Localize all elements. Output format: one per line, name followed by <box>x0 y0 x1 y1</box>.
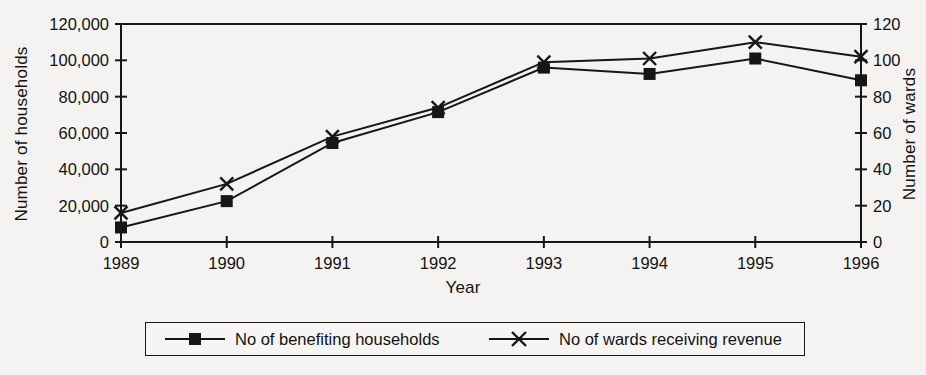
legend-label-wards: No of wards receiving revenue <box>559 330 782 349</box>
legend-marker-square-icon <box>164 330 226 348</box>
data-point-square <box>221 195 233 207</box>
legend-item-wards[interactable]: No of wards receiving revenue <box>488 323 782 355</box>
data-point-square <box>115 221 127 233</box>
series-line-cross <box>121 42 861 213</box>
data-point-square <box>855 74 867 86</box>
plot-area <box>0 0 926 375</box>
data-point-square <box>644 68 656 80</box>
legend-marker-cross-icon <box>488 330 550 348</box>
chart-legend: No of benefiting households No of wards … <box>145 322 805 356</box>
chart-figure: Number of households Number of wards Yea… <box>0 0 926 375</box>
data-point-square <box>749 53 761 65</box>
legend-label-households: No of benefiting households <box>235 330 440 349</box>
legend-item-households[interactable]: No of benefiting households <box>164 323 440 355</box>
